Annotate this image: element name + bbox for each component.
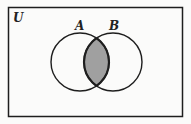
universe-label: U <box>13 11 25 25</box>
venn-diagram: U A B <box>0 0 191 124</box>
set-a-label: A <box>74 19 84 33</box>
set-b-label: B <box>108 19 119 33</box>
